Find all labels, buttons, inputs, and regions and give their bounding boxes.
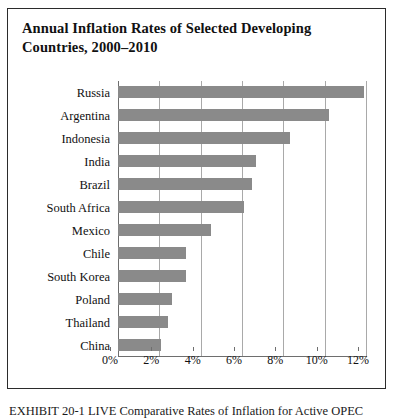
category-label-indonesia: Indonesia xyxy=(61,133,110,146)
bar-mexico xyxy=(118,224,211,236)
category-label-chile: Chile xyxy=(83,248,110,261)
chart-row: Brazil xyxy=(118,173,366,196)
x-axis-tick-label: 0% xyxy=(102,354,118,366)
x-tickmark xyxy=(151,347,152,351)
category-label-brazil: Brazil xyxy=(79,179,110,192)
bar-china xyxy=(118,339,161,351)
bar-south-africa xyxy=(118,201,244,213)
x-axis-tick-label: 8% xyxy=(267,354,283,366)
category-label-thailand: Thailand xyxy=(66,317,110,330)
bar-indonesia xyxy=(118,132,290,144)
chart-row: Chile xyxy=(118,241,366,264)
x-axis-tick-label: 6% xyxy=(226,354,242,366)
bar-argentina xyxy=(118,109,329,121)
plot-area: RussiaArgentinaIndonesiaIndiaBrazilSouth… xyxy=(118,81,366,356)
category-label-south-africa: South Africa xyxy=(46,202,110,215)
category-label-china: China xyxy=(80,340,110,353)
chart-row: India xyxy=(118,150,366,173)
category-label-poland: Poland xyxy=(75,294,110,307)
figure-frame: Annual Inflation Rates of Selected Devel… xyxy=(7,8,386,389)
chart-row: South Africa xyxy=(118,196,366,219)
chart-row: Poland xyxy=(118,287,366,310)
bar-south-korea xyxy=(118,270,186,282)
category-label-mexico: Mexico xyxy=(72,225,110,238)
chart-row: Mexico xyxy=(118,219,366,242)
bar-poland xyxy=(118,293,172,305)
x-tickmark xyxy=(358,347,359,351)
bar-chile xyxy=(118,247,186,259)
chart-row: Argentina xyxy=(118,104,366,127)
chart-row: Indonesia xyxy=(118,127,366,150)
bar-india xyxy=(118,155,256,167)
bar-thailand xyxy=(118,316,168,328)
x-tickmark xyxy=(275,347,276,351)
chart-row: Thailand xyxy=(118,310,366,333)
chart-title: Annual Inflation Rates of Selected Devel… xyxy=(22,19,372,57)
category-label-india: India xyxy=(84,156,110,169)
chart-row: Russia xyxy=(118,81,366,104)
x-tickmark xyxy=(193,347,194,351)
bar-russia xyxy=(118,86,364,98)
x-tickmark xyxy=(234,347,235,351)
bar-brazil xyxy=(118,178,252,190)
category-label-argentina: Argentina xyxy=(60,110,110,123)
x-axis-tick-label: 10% xyxy=(306,354,328,366)
x-axis-tick-label: 2% xyxy=(143,354,159,366)
x-tickmark xyxy=(317,347,318,351)
x-axis-tick-label: 4% xyxy=(185,354,201,366)
x-axis-tick-label: 12% xyxy=(347,354,369,366)
chart-row: South Korea xyxy=(118,264,366,287)
category-label-south-korea: South Korea xyxy=(47,271,110,284)
x-tickmark xyxy=(110,347,111,351)
category-label-russia: Russia xyxy=(77,87,110,100)
figure-caption: EXHIBIT 20-1 LIVE Comparative Rates of I… xyxy=(9,404,387,420)
gridline-12% xyxy=(366,81,367,356)
